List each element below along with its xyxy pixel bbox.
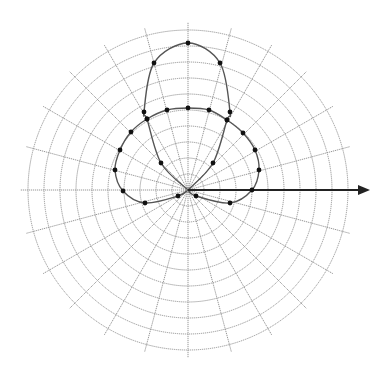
- reference-axis: [188, 185, 370, 195]
- data-point: [194, 194, 199, 199]
- grid-spoke: [188, 106, 333, 190]
- data-curves: [115, 43, 259, 203]
- data-point: [186, 106, 191, 111]
- data-point: [142, 110, 147, 115]
- data-point: [241, 131, 246, 136]
- data-point: [159, 161, 164, 166]
- data-point: [152, 61, 157, 66]
- data-point: [253, 148, 258, 153]
- grid-spoke: [26, 147, 188, 190]
- grid-spoke: [43, 106, 188, 190]
- grid-spoke: [26, 190, 188, 233]
- data-point: [225, 118, 230, 123]
- data-point: [165, 108, 170, 113]
- grid-spoke: [69, 190, 188, 309]
- grid-spoke: [43, 190, 188, 274]
- data-point: [129, 130, 134, 135]
- grid-spoke: [188, 147, 350, 190]
- data-point: [207, 108, 212, 113]
- data-point: [176, 194, 181, 199]
- data-point: [118, 148, 123, 153]
- grid-spoke: [188, 190, 231, 352]
- data-point: [257, 168, 262, 173]
- data-point: [218, 61, 223, 66]
- data-point: [250, 188, 255, 193]
- data-points: [113, 41, 262, 206]
- grid-spoke: [69, 71, 188, 190]
- data-point: [121, 189, 126, 194]
- data-point: [186, 41, 191, 46]
- grid-spoke: [188, 190, 307, 309]
- data-point: [143, 201, 148, 206]
- polar-chart: [0, 0, 383, 379]
- data-point: [228, 201, 233, 206]
- data-point: [211, 161, 216, 166]
- grid-spoke: [188, 190, 350, 233]
- grid-spoke: [145, 190, 188, 352]
- data-point: [113, 168, 118, 173]
- grid-spoke: [188, 190, 333, 274]
- data-point: [228, 110, 233, 115]
- arrow-head-icon: [358, 185, 370, 195]
- grid-spoke: [188, 190, 272, 335]
- grid-spoke: [104, 190, 188, 335]
- data-point: [145, 117, 150, 122]
